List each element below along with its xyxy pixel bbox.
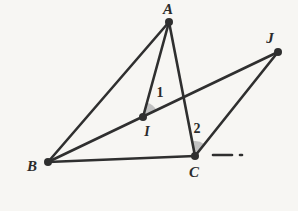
point-label-I: I xyxy=(144,125,149,139)
point-label-B: B xyxy=(27,159,37,174)
angle-1-label: 1 xyxy=(157,86,164,100)
vertex-dot-I xyxy=(139,113,147,121)
segment-BJ xyxy=(48,52,278,162)
vertex-dot-B xyxy=(44,158,52,166)
point-label-J: J xyxy=(266,31,274,46)
segment-BC xyxy=(48,156,195,162)
point-label-C: C xyxy=(189,165,199,180)
point-label-A: A xyxy=(163,2,173,17)
vertex-dot-C xyxy=(191,152,199,160)
segment-CJ xyxy=(195,52,278,156)
segment-AC xyxy=(169,22,195,156)
geometry-figure: ABCIJ12 xyxy=(0,0,298,211)
angle-2-label: 2 xyxy=(194,122,201,136)
vertex-dot-J xyxy=(274,48,282,56)
vertex-dot-A xyxy=(165,18,173,26)
figure-canvas xyxy=(0,0,298,211)
